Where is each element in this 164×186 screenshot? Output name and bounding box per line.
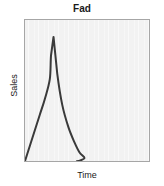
x-axis-label: Time — [24, 170, 150, 181]
chart-title: Fad — [0, 3, 164, 15]
y-axis-label: Sales — [9, 56, 20, 116]
fad-curve-line — [25, 37, 85, 161]
plot-area — [24, 19, 150, 162]
chart-figure: Fad Sales Time — [0, 0, 164, 186]
fad-curve-svg — [25, 20, 149, 161]
